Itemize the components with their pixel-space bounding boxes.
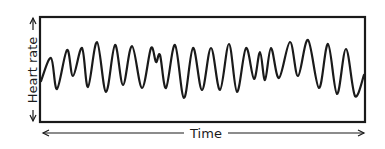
x-axis-label: Time: [189, 126, 222, 141]
y-axis-label: Heart rate: [25, 37, 40, 104]
plot-frame: [40, 17, 365, 122]
heart-rate-line: [41, 40, 364, 98]
heart-rate-chart: Time Heart rate: [0, 0, 385, 149]
